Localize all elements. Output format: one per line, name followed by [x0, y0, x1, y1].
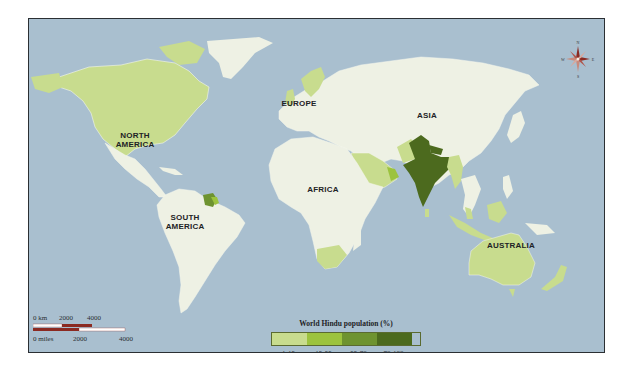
legend-swatches — [271, 332, 421, 346]
sri-lanka — [425, 209, 429, 217]
label-europe: EUROPE — [275, 99, 323, 108]
philippines — [503, 175, 513, 199]
legend-label: 15-55 — [306, 349, 341, 353]
legend-title: World Hindu population (%) — [271, 319, 421, 328]
legend-swatch-70-100 — [377, 333, 412, 345]
label-text: SOUTH AMERICA — [166, 213, 205, 231]
label-africa: AFRICA — [299, 185, 347, 194]
label-south-america: SOUTH AMERICA — [157, 213, 213, 231]
scale-mi-0: 0 miles — [33, 335, 53, 343]
label-text: NORTH AMERICA — [116, 131, 155, 149]
scale-mi-2000: 2000 — [73, 335, 87, 343]
label-text: AFRICA — [307, 185, 338, 194]
legend: World Hindu population (%) 1-15 15-55 55… — [271, 319, 421, 353]
legend-label: 70-100 — [376, 349, 411, 353]
new-guinea — [525, 223, 555, 235]
label-text: ASIA — [417, 111, 437, 120]
legend-label: 55-70 — [341, 349, 376, 353]
scale-bars — [33, 323, 143, 333]
mexico-central-america — [105, 143, 167, 197]
svg-text:N: N — [577, 40, 580, 45]
caribbean — [159, 167, 183, 175]
scale-bar: 0 km 2000 4000 0 miles 2000 4000 — [33, 314, 153, 344]
label-australia: AUSTRALIA — [481, 241, 541, 250]
south-america — [157, 189, 245, 313]
svg-text:S: S — [577, 74, 579, 79]
legend-swatch-55-70 — [342, 333, 377, 345]
label-asia: ASIA — [407, 111, 447, 120]
alaska — [31, 73, 63, 93]
label-text: EUROPE — [282, 99, 317, 108]
svg-text:E: E — [592, 57, 595, 62]
legend-swatch-1-15 — [272, 333, 307, 345]
scale-km-2000: 2000 — [59, 314, 73, 322]
label-text: AUSTRALIA — [487, 241, 535, 250]
scale-km-labels: 0 km 2000 4000 — [33, 314, 153, 323]
legend-swatch-15-55 — [307, 333, 342, 345]
scale-miles-labels: 0 miles 2000 4000 — [33, 335, 153, 344]
label-north-america: NORTH AMERICA — [105, 131, 165, 149]
svg-text:W: W — [561, 57, 565, 62]
scale-km-0: 0 km — [33, 314, 47, 322]
japan — [507, 111, 525, 143]
legend-label: 1-15 — [271, 349, 306, 353]
new-zealand — [541, 265, 567, 291]
world-map: NORTH AMERICA SOUTH AMERICA EUROPE AFRIC… — [28, 18, 605, 353]
tasmania — [509, 289, 515, 297]
legend-labels: 1-15 15-55 55-70 70-100 — [271, 349, 421, 353]
greenland — [207, 37, 273, 79]
scale-km-4000: 4000 — [87, 314, 101, 322]
compass-rose-icon: N E S W — [561, 39, 595, 79]
borneo — [487, 201, 507, 223]
scale-mi-4000: 4000 — [119, 335, 133, 343]
